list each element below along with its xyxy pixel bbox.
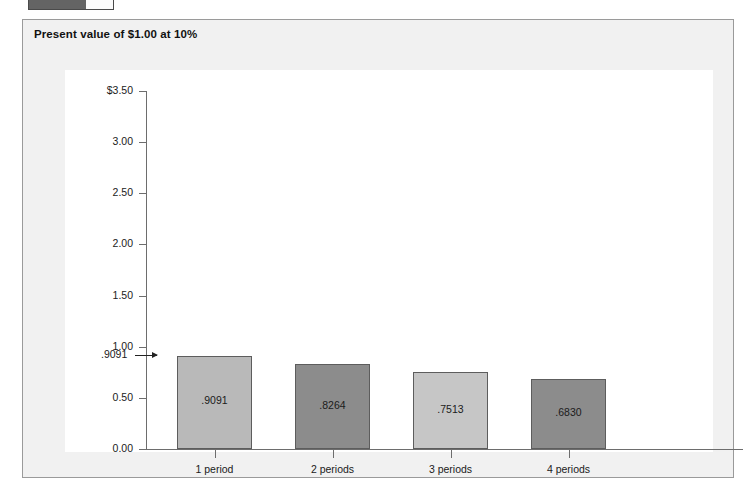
x-axis-label: 4 periods: [519, 463, 619, 475]
y-axis-tick-label: 1.50: [113, 289, 133, 301]
bar: .9091: [177, 356, 252, 449]
y-axis-tick: $3.50: [139, 91, 146, 92]
x-axis-label: 2 periods: [283, 463, 383, 475]
y-axis-tick-label: 0.50: [113, 391, 133, 403]
bar: .8264: [295, 364, 370, 449]
exhibit-panel: Present value of $1.00 at 10% $3.503.002…: [22, 19, 734, 478]
y-axis-tick: 3.00: [139, 142, 146, 143]
right-arrow-icon: [135, 355, 157, 356]
y-axis-line: [146, 91, 147, 449]
x-axis-tick: [215, 450, 216, 458]
y-axis-tick-label: 0.00: [113, 442, 133, 454]
y-axis-tick: 0.50: [139, 398, 146, 399]
x-axis-line: [146, 449, 743, 450]
callout-label: .9091: [101, 348, 127, 360]
x-axis-label: 3 periods: [401, 463, 501, 475]
chart-plot-area: $3.503.002.502.001.501.000.500.00 .9091.…: [65, 70, 713, 452]
y-axis-tick: 0.00: [139, 449, 146, 450]
x-axis-label: 1 period: [165, 463, 265, 475]
x-axis-tick: [569, 450, 570, 458]
bar-value-label: .9091: [178, 394, 251, 406]
y-axis-tick: 2.00: [139, 244, 146, 245]
bar: .7513: [413, 372, 488, 449]
y-axis-tick: 1.50: [139, 296, 146, 297]
y-axis-tick: 1.00: [139, 347, 146, 348]
bar-value-label: .7513: [414, 403, 487, 415]
progress-bar[interactable]: [28, 0, 114, 10]
y-axis-tick-label: 2.50: [113, 186, 133, 198]
y-axis-tick-label: $3.50: [107, 84, 133, 96]
bar: .6830: [531, 379, 606, 449]
page-title: Present value of $1.00 at 10%: [34, 28, 197, 40]
bar-value-label: .6830: [532, 406, 605, 418]
bar-value-label: .8264: [296, 399, 369, 411]
y-axis-tick-label: 3.00: [113, 135, 133, 147]
y-axis-tick: 2.50: [139, 193, 146, 194]
progress-bar-fill: [29, 0, 86, 9]
x-axis-tick: [451, 450, 452, 458]
y-axis-tick-label: 2.00: [113, 237, 133, 249]
x-axis-tick: [333, 450, 334, 458]
